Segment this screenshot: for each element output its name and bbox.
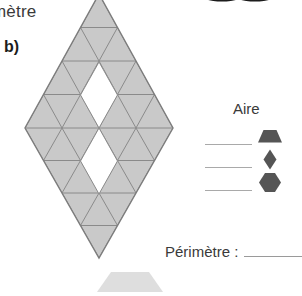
trapezoid-answer-blank[interactable]	[205, 144, 252, 145]
aire-heading: Aire	[233, 100, 260, 117]
hexagon-shape-icon	[257, 171, 283, 193]
aire-legend	[205, 124, 285, 193]
legend-row-trapezoid	[205, 124, 285, 147]
perimetre-label: Périmètre :	[165, 243, 238, 260]
hexagon-answer-blank[interactable]	[205, 190, 252, 191]
perimetre-row: Périmètre :	[165, 243, 302, 260]
bottom-trapezoid-crop	[97, 272, 163, 292]
trapezoid-shape-icon	[257, 125, 283, 147]
rhombus-answer-blank[interactable]	[205, 167, 252, 168]
perimetre-answer-blank[interactable]	[244, 256, 302, 257]
legend-row-hexagon	[205, 170, 285, 193]
rhombus-shape-icon	[257, 148, 283, 170]
legend-row-rhombus	[205, 147, 285, 170]
